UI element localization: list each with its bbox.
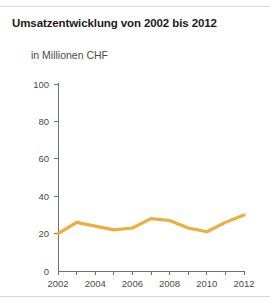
data-series-line [58, 215, 244, 234]
bottom-divider [0, 296, 270, 297]
x-axis-tick-label: 2008 [159, 278, 180, 289]
x-axis-tick-label: 2010 [196, 278, 217, 289]
x-axis-tick-label: 2006 [122, 278, 143, 289]
y-axis-tick-label: 40 [38, 191, 49, 202]
x-axis-tick-label: 2002 [47, 278, 68, 289]
y-axis-tick-label: 100 [33, 79, 49, 90]
y-axis-tick-label: 0 [44, 266, 49, 277]
line-chart: 020406080100200220042006200820102012 [0, 0, 270, 304]
chart-panel: Umsatzentwicklung von 2002 bis 2012 in M… [0, 0, 270, 304]
x-axis-tick-label: 2012 [233, 278, 254, 289]
x-axis-tick-label: 2004 [85, 278, 106, 289]
y-axis-tick-label: 20 [38, 228, 49, 239]
plot-area: 020406080100200220042006200820102012 [0, 0, 270, 304]
y-axis-tick-label: 60 [38, 153, 49, 164]
y-axis-tick-label: 80 [38, 116, 49, 127]
